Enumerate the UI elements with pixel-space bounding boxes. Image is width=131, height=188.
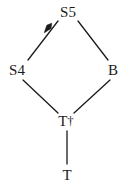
dagger-icon: † [67, 113, 74, 128]
edge-s4-tdagger [23, 80, 58, 113]
node-label-t-dagger: T† [58, 113, 74, 129]
edge-layer [0, 0, 131, 188]
node-label-t: T [62, 168, 71, 183]
node-label-t-dagger-text: T [58, 113, 67, 129]
hasse-diagram: S5 S4 B T† T [0, 0, 131, 188]
node-label-s4: S4 [9, 63, 25, 78]
edge-b-tdagger [74, 80, 110, 113]
node-label-s5: S5 [60, 5, 76, 20]
edge-s4-s5 [28, 21, 58, 60]
node-label-b: B [108, 63, 118, 78]
edge-s5-b [78, 21, 108, 60]
